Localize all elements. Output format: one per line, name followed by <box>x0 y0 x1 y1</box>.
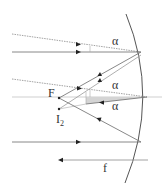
alpha-label-mid-lower: α <box>112 100 118 112</box>
arrow-icon <box>98 78 103 82</box>
focus-label: F <box>48 87 55 99</box>
image-label-subscript: 2 <box>60 119 64 128</box>
focal-length-label: f <box>103 162 107 174</box>
focus-point <box>58 97 60 99</box>
arrow-icon <box>97 118 102 123</box>
image-point <box>58 108 60 110</box>
arrow-icon <box>76 42 81 47</box>
arrow-icon <box>76 50 81 54</box>
arrow-icon <box>76 140 81 144</box>
arrow-icon <box>58 158 63 162</box>
diagram-canvas <box>0 0 163 193</box>
image-label: I2 <box>56 113 64 128</box>
alpha-label-mid-upper: α <box>112 79 118 91</box>
ray-diagram: α α α F I2 f <box>0 0 163 193</box>
alpha-label-top: α <box>112 35 118 47</box>
